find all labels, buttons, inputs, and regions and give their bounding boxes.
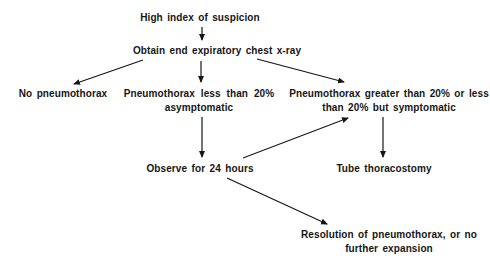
flowchart-arrows bbox=[0, 0, 490, 266]
arrow-xray-to-greater-than-20 bbox=[257, 59, 344, 82]
node-pneumothorax-greater-than-20: Pneumothorax greater than 20% or less th… bbox=[289, 87, 489, 114]
node-observe-24-hours: Observe for 24 hours bbox=[141, 162, 259, 176]
node-obtain-chest-xray: Obtain end expiratory chest x-ray bbox=[116, 44, 318, 58]
node-pneumothorax-less-than-20: Pneumothorax less than 20% asymptomatic bbox=[118, 87, 280, 114]
node-tube-thoracostomy: Tube thoracostomy bbox=[333, 162, 435, 176]
arrow-observe-to-greater-than-20 bbox=[243, 118, 348, 158]
arrow-xray-to-no-pneumothorax bbox=[74, 60, 143, 84]
node-resolution: Resolution of pneumothorax, or no furthe… bbox=[294, 228, 484, 255]
arrow-observe-to-resolution bbox=[227, 178, 327, 224]
pneumothorax-flowchart: High index of suspicion Obtain end expir… bbox=[0, 0, 490, 266]
node-high-index-of-suspicion: High index of suspicion bbox=[139, 11, 261, 25]
node-no-pneumothorax: No pneumothorax bbox=[8, 87, 118, 101]
